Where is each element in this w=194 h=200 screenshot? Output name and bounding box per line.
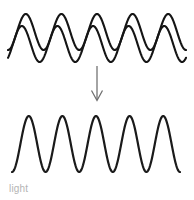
wave-canvas — [0, 0, 194, 200]
figure-caption: light — [9, 183, 28, 195]
input-waves-group — [8, 14, 186, 62]
coherent-wave-path — [12, 116, 180, 172]
transformation-arrow — [92, 66, 103, 101]
light-wave-diagram: light — [0, 0, 194, 200]
output-wave-group — [12, 116, 180, 172]
